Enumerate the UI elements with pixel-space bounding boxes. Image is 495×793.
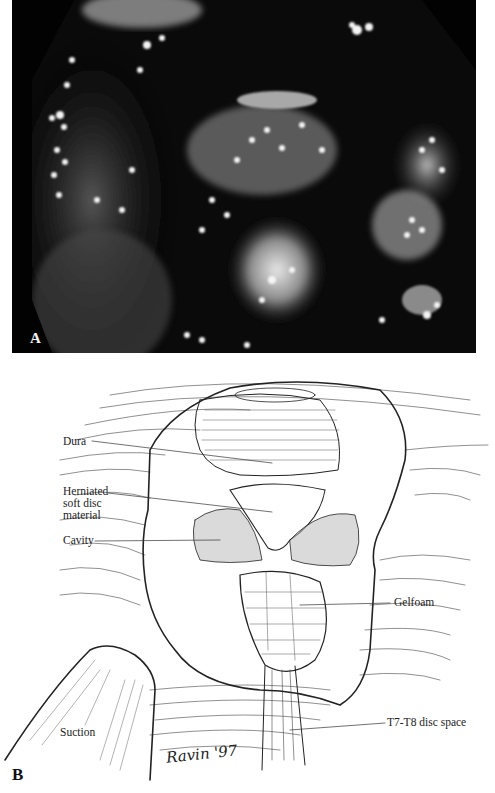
surgical-illustration-panel-b: Dura Herniated soft disc material Cavity… bbox=[0, 360, 495, 793]
callout-disc-space: T7-T8 disc space bbox=[387, 717, 466, 729]
callout-gelfoam: Gelfoam bbox=[394, 597, 434, 609]
callout-dura: Dura bbox=[63, 436, 86, 448]
endoscopic-photo-panel-a: A bbox=[12, 0, 476, 353]
callout-herniated-line3: material bbox=[63, 510, 101, 522]
callout-herniated-line1: Herniated bbox=[63, 486, 108, 498]
panel-label-b: B bbox=[12, 765, 23, 785]
callout-cavity: Cavity bbox=[63, 535, 94, 547]
endoscopic-photo-image bbox=[12, 0, 476, 353]
callout-herniated-line2: soft disc bbox=[63, 498, 102, 510]
panel-label-a: A bbox=[30, 330, 41, 347]
callout-suction: Suction bbox=[60, 727, 95, 739]
